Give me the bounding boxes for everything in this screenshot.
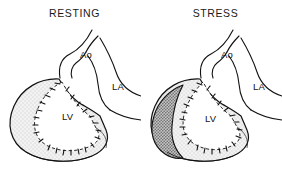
label-left-atrium-resting: LA	[112, 81, 124, 92]
label-aorta-resting: Ao	[80, 49, 92, 60]
heart-comparison-figure: RESTING	[0, 0, 282, 172]
panel-stress: STRESS	[141, 0, 282, 172]
panel-resting: RESTING	[0, 0, 141, 172]
aorta-outline	[200, 30, 239, 78]
heart-diagram-resting: Ao LA LV	[0, 16, 141, 172]
label-aorta-stress: Ao	[221, 49, 233, 60]
heart-diagram-stress: Ao LA LV	[141, 16, 282, 172]
aorta-outline	[59, 30, 98, 78]
label-left-ventricle-stress: LV	[205, 113, 217, 124]
left-atrium-outline	[88, 38, 141, 120]
label-left-atrium-stress: LA	[253, 81, 265, 92]
label-left-ventricle-resting: LV	[62, 111, 74, 122]
left-atrium-outline	[229, 38, 282, 120]
